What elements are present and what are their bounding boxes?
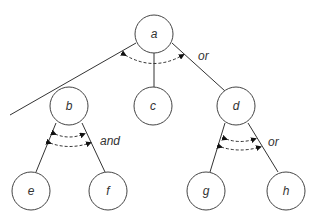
node-f: f bbox=[89, 172, 127, 210]
node-g: g bbox=[187, 172, 225, 210]
node-c: c bbox=[134, 87, 172, 125]
and-arc-b-1 bbox=[55, 134, 84, 137]
node-label-e: e bbox=[28, 184, 35, 198]
connector-label-b: and bbox=[100, 134, 120, 148]
node-label-b: b bbox=[66, 99, 73, 113]
edge-b-e bbox=[36, 123, 56, 172]
node-a: a bbox=[135, 15, 173, 53]
connector-label-a: or bbox=[198, 49, 210, 63]
node-label-d: d bbox=[233, 99, 240, 113]
nodes: a b c d e f g h bbox=[12, 15, 305, 210]
node-b: b bbox=[50, 87, 88, 125]
node-e: e bbox=[12, 172, 50, 210]
node-label-a: a bbox=[151, 27, 158, 41]
node-label-g: g bbox=[203, 184, 210, 198]
and-or-tree-diagram: or and or a b c d e f bbox=[0, 0, 311, 223]
node-d: d bbox=[217, 87, 255, 125]
or-arc-d-1 bbox=[226, 139, 255, 142]
and-arc-b-2 bbox=[50, 143, 90, 147]
node-label-c: c bbox=[150, 99, 156, 113]
or-arc-d-2 bbox=[221, 147, 260, 150]
connector-label-d: or bbox=[268, 135, 280, 149]
node-label-h: h bbox=[283, 184, 290, 198]
node-h: h bbox=[267, 172, 305, 210]
